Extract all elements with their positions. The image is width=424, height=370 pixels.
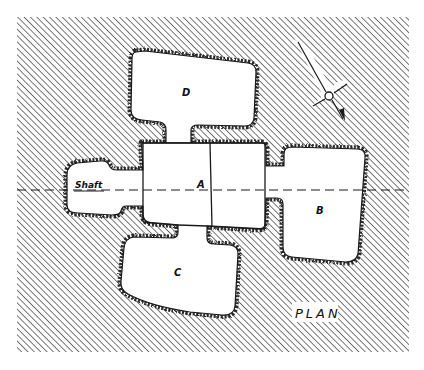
room-b-label: B	[316, 205, 324, 216]
room-c-label: C	[174, 267, 182, 278]
shaft-label: Shaft	[75, 180, 103, 190]
room-a-label: A	[196, 179, 205, 190]
tomb-plan-diagram: D A B C Shaft PLAN	[0, 0, 424, 370]
plan-label: PLAN	[295, 306, 341, 321]
room-d-label: D	[182, 87, 190, 98]
